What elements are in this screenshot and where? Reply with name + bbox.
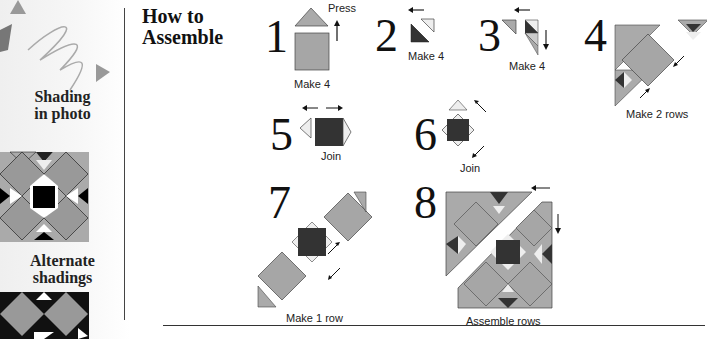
- step-5-caption: Join: [321, 150, 341, 162]
- arrow-down-icon: [543, 44, 549, 50]
- alternate-shadings-block: [0, 292, 89, 339]
- step-8-diagram: [446, 184, 566, 312]
- step-1-press-note: Press: [328, 2, 356, 14]
- shading-in-photo-label: Shading in photo: [0, 88, 125, 122]
- step-3-caption: Make 4: [509, 60, 545, 72]
- step-2-number: 2: [375, 13, 398, 59]
- divider-vertical: [124, 8, 125, 320]
- label-line: Alternate: [0, 252, 125, 269]
- step-6-number: 6: [414, 112, 437, 158]
- arrow-left-icon: [531, 185, 536, 191]
- arrow-up-left-icon: [474, 100, 479, 104]
- divider-horizontal: [163, 325, 705, 326]
- shading-in-photo-block: [0, 152, 89, 242]
- arrow-down-left-icon: [328, 275, 332, 280]
- step-4-number: 4: [584, 13, 607, 59]
- alternate-shadings-label: Alternate shadings: [0, 252, 125, 286]
- step-4-caption: Make 2 rows: [626, 108, 688, 120]
- title-line: How to: [142, 6, 223, 27]
- sidebar: Shading in photo Alternate shadings: [0, 0, 130, 339]
- step-3-diagram: [500, 6, 552, 61]
- step-1-caption: Make 4: [294, 78, 330, 90]
- title-line: Assemble: [142, 27, 223, 48]
- arrow-left-icon: [408, 7, 413, 13]
- step-1-diagram: [292, 6, 342, 78]
- step-7-caption: Make 1 row: [286, 312, 343, 324]
- step-5-number: 5: [270, 112, 293, 158]
- step-4-diagram: [612, 18, 707, 108]
- step-3-number: 3: [478, 13, 501, 59]
- step-2-caption: Make 4: [408, 50, 444, 62]
- arrow-left-icon: [302, 105, 307, 111]
- label-line: in photo: [0, 105, 125, 122]
- label-line: shadings: [0, 269, 125, 286]
- step-1-number: 1: [265, 14, 288, 60]
- arrow-down-icon: [555, 228, 561, 234]
- step-6-caption: Join: [460, 162, 480, 174]
- step-5-diagram: [298, 104, 370, 146]
- step-7-diagram: [254, 190, 374, 310]
- label-line: Shading: [0, 88, 125, 105]
- arrow-up-right-icon: [335, 242, 340, 246]
- arrow-right-icon: [338, 105, 343, 111]
- step-2-diagram: [408, 6, 440, 46]
- arrow-left-icon: [514, 7, 519, 13]
- page-title: How to Assemble: [142, 6, 223, 48]
- arrow-up-icon: [334, 20, 340, 26]
- step-8-number: 8: [414, 180, 437, 226]
- step-6-diagram: [440, 92, 512, 162]
